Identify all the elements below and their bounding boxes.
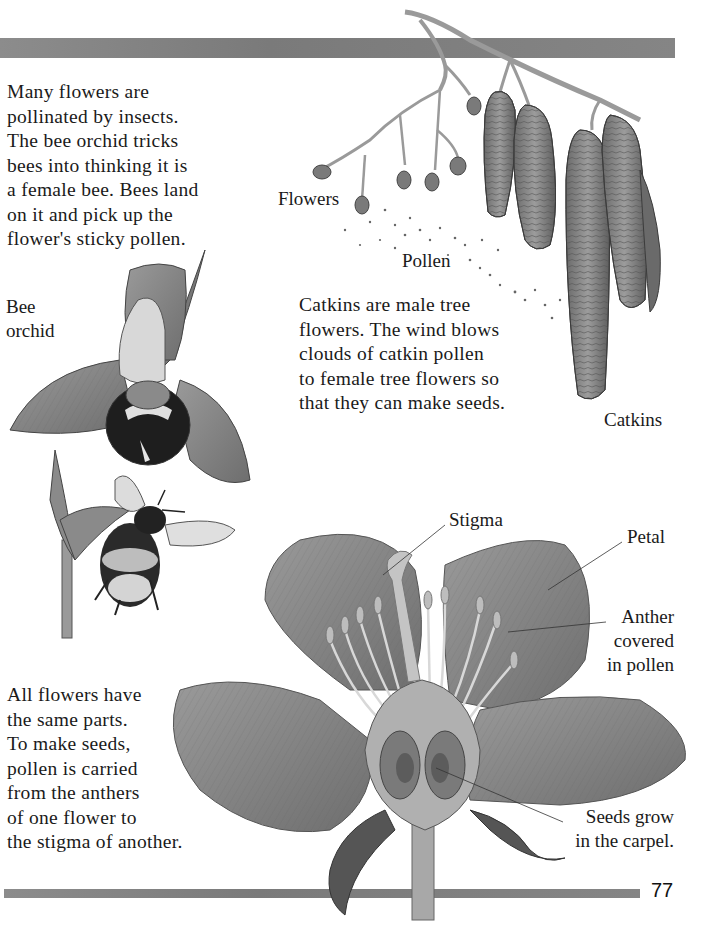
label-line: in pollen [594, 653, 674, 677]
stigma-label: Stigma [449, 508, 503, 532]
bumblebee-illustration [95, 476, 235, 615]
text-line: to female tree flowers so [299, 367, 505, 392]
page-number: 77 [651, 879, 673, 902]
anther-label: Anther covered in pollen [594, 605, 674, 677]
text-line: bees into thinking it is [7, 154, 199, 179]
text-line: from the anthers [7, 781, 183, 806]
outro-paragraph: All flowers have the same parts. To make… [7, 683, 183, 855]
flower-cross-section-illustration [173, 534, 685, 920]
label-line: covered [594, 629, 674, 653]
text-line: Many flowers are [7, 80, 199, 105]
text-line: of one flower to [7, 806, 183, 831]
text-line: clouds of catkin pollen [299, 342, 505, 367]
text-line: Catkins are male tree [299, 293, 505, 318]
text-line: that they can make seeds. [299, 391, 505, 416]
text-line: on it and pick up the [7, 203, 199, 228]
text-line: a female bee. Bees land [7, 178, 199, 203]
label-line: in the carpel. [540, 829, 674, 853]
pollen-label: Pollen [402, 249, 451, 273]
text-line: the same parts. [7, 708, 183, 733]
petal-label: Petal [627, 525, 665, 549]
text-line: To make seeds, [7, 732, 183, 757]
label-line: Bee [6, 295, 55, 319]
bee-orchid-label: Bee orchid [6, 295, 55, 343]
seeds-label: Seeds grow in the carpel. [540, 805, 674, 853]
text-line: the stigma of another. [7, 830, 183, 855]
text-line: The bee orchid tricks [7, 129, 199, 154]
catkins-paragraph: Catkins are male tree flowers. The wind … [299, 293, 505, 416]
text-line: pollen is carried [7, 757, 183, 782]
label-line: orchid [6, 319, 55, 343]
text-line: All flowers have [7, 683, 183, 708]
flowers-label: Flowers [278, 187, 339, 211]
text-line: flower's sticky pollen. [7, 227, 199, 252]
label-line: Anther [594, 605, 674, 629]
text-line: pollinated by insects. [7, 105, 199, 130]
text-line: flowers. The wind blows [299, 318, 505, 343]
intro-paragraph: Many flowers are pollinated by insects. … [7, 80, 199, 252]
catkins-label: Catkins [604, 408, 662, 432]
label-line: Seeds grow [540, 805, 674, 829]
